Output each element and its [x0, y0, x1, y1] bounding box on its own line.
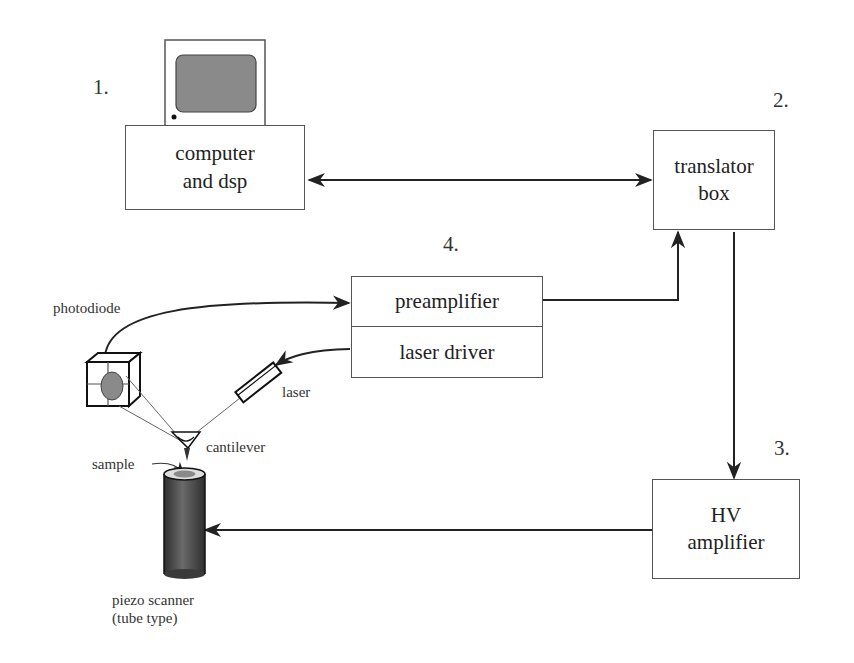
- block-number-1: 1.: [93, 75, 109, 100]
- computer-monitor-icon: [165, 40, 265, 126]
- sample-label: sample: [92, 455, 135, 473]
- scanner-label-line1: piezo scanner: [112, 591, 194, 609]
- laser-icon: [235, 362, 281, 402]
- translator-label-line2: box: [698, 180, 730, 207]
- laser-label: laser: [282, 383, 310, 401]
- driver-laser-link: [276, 349, 350, 365]
- hv-label-line1: HV: [711, 502, 741, 529]
- preamplifier-section: preamplifier: [352, 277, 542, 327]
- photodiode-preamp-link: [105, 303, 349, 356]
- translator-label-line1: translator: [674, 153, 753, 180]
- computer-label-line2: and dsp: [183, 168, 248, 195]
- preamp-driver-block: preamplifier laser driver: [351, 276, 543, 378]
- photodiode-icon: [87, 353, 140, 406]
- cantilever-icon: [172, 432, 200, 461]
- hv-label-line2: amplifier: [688, 529, 765, 556]
- block-number-4: 4.: [443, 232, 459, 257]
- preamp-translator-link: [543, 232, 678, 300]
- hv-amplifier-block: HV amplifier: [652, 479, 800, 579]
- laser-driver-section: laser driver: [352, 327, 542, 377]
- translator-block: translator box: [653, 130, 775, 230]
- block-number-3: 3.: [774, 436, 790, 461]
- cantilever-label: cantilever: [206, 438, 265, 456]
- scanner-label-line2: (tube type): [112, 609, 177, 627]
- computer-block: computer and dsp: [125, 125, 305, 210]
- block-number-2: 2.: [773, 88, 789, 113]
- computer-label-line1: computer: [175, 140, 254, 167]
- piezo-scanner-icon: [164, 468, 205, 579]
- photodiode-label: photodiode: [53, 299, 121, 317]
